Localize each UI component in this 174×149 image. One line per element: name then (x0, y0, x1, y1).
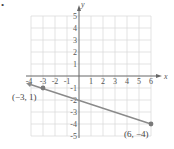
x-axis-label: x (163, 72, 168, 81)
svg-text:4: 4 (125, 77, 129, 86)
x-axis-arrow-icon (156, 74, 162, 78)
point-b (149, 122, 154, 127)
svg-text:5: 5 (137, 77, 141, 86)
svg-text:3: 3 (113, 77, 117, 86)
svg-text:2: 2 (73, 48, 77, 57)
point-a-label: (−3, 1) (12, 92, 37, 102)
svg-text:-3: -3 (70, 108, 77, 117)
svg-text:1: 1 (89, 77, 93, 86)
svg-text:3: 3 (73, 36, 77, 45)
axes (26, 8, 158, 138)
svg-text:2: 2 (101, 77, 105, 86)
svg-text:-1: -1 (70, 84, 77, 93)
point-a (41, 86, 46, 91)
svg-text:6: 6 (149, 77, 153, 86)
coordinate-plane: • x y -4 -3 -2 -1 1 2 3 (0, 0, 174, 149)
svg-text:5: 5 (73, 12, 77, 21)
svg-text:1: 1 (73, 60, 77, 69)
x-tick-labels: -4 -3 -2 -1 1 2 3 4 5 6 (26, 77, 153, 86)
svg-text:-4: -4 (70, 120, 77, 129)
point-b-label: (6, −4) (124, 129, 149, 139)
svg-text:-3: -3 (40, 77, 47, 86)
bullet-marker: • (1, 0, 4, 10)
y-axis-label: y (80, 0, 85, 9)
svg-text:-2: -2 (52, 77, 59, 86)
svg-text:-1: -1 (64, 77, 71, 86)
svg-text:4: 4 (73, 24, 77, 33)
svg-text:-5: -5 (70, 132, 77, 141)
line-segment (29, 84, 151, 124)
